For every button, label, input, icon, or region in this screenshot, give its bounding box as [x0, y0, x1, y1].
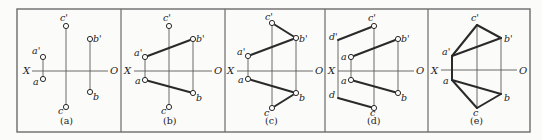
edge-line — [477, 94, 501, 108]
point-label: b — [299, 92, 305, 103]
axis-origin-label: O — [519, 65, 527, 76]
point-label: b' — [299, 33, 308, 44]
point-marker-icon — [245, 53, 250, 58]
axis-x-label: X — [327, 65, 336, 76]
point-label: c' — [265, 11, 273, 22]
point-marker-icon — [142, 77, 147, 82]
point-label: a' — [442, 46, 450, 57]
point-label: a — [341, 51, 347, 62]
axis-origin-label: O — [214, 65, 222, 76]
point-label: a — [341, 75, 347, 86]
projection-figure: XOa'ab'bc'c(a)XOa'ab'bc'c(b)XOa'ab'bc'c(… — [0, 0, 542, 140]
panels: XOa'ab'bc'c(a)XOa'ab'bc'c(b)XOa'ab'bc'c(… — [22, 11, 527, 126]
edge-line — [351, 39, 398, 57]
point-marker-icon — [293, 35, 298, 40]
edge-line — [351, 80, 398, 93]
point-label: a — [238, 74, 244, 85]
point-label: d' — [329, 31, 338, 42]
point-label: b' — [93, 33, 102, 44]
point-marker-icon — [142, 54, 147, 59]
panel-caption: (a) — [60, 115, 73, 126]
point-label: a' — [134, 47, 142, 58]
panel-caption: (b) — [163, 115, 177, 126]
panel-caption: (e) — [470, 115, 483, 126]
axis-x-label: X — [226, 65, 235, 76]
point-label: b — [196, 92, 202, 103]
point-marker-icon — [190, 36, 195, 41]
point-label: b — [401, 92, 407, 103]
point-label: a — [33, 76, 39, 87]
edge-line — [272, 93, 296, 108]
point-label: b — [504, 92, 510, 103]
point-label: c' — [368, 12, 376, 23]
figure-frame — [17, 9, 530, 132]
panel-d: XOd'aab'bc'cd(d) — [327, 12, 424, 126]
axis-x-label: X — [22, 65, 31, 76]
point-marker-icon — [348, 77, 353, 82]
point-marker-icon — [63, 104, 68, 109]
edge-line — [272, 23, 296, 38]
point-marker-icon — [348, 54, 353, 59]
edge-line — [338, 98, 374, 108]
point-marker-icon — [166, 104, 171, 109]
point-marker-icon — [269, 105, 274, 110]
point-label: b — [93, 91, 99, 102]
axis-x-label: X — [430, 65, 439, 76]
point-label: c' — [60, 12, 68, 23]
panel-c: XOa'ab'bc'c(c) — [226, 11, 323, 126]
point-label: c' — [471, 12, 479, 23]
panel-caption: (d) — [367, 115, 381, 126]
point-marker-icon — [87, 89, 92, 94]
axis-origin-label: O — [110, 65, 118, 76]
point-label: d — [329, 89, 335, 100]
point-marker-icon — [293, 90, 298, 95]
point-marker-icon — [371, 23, 376, 28]
point-marker-icon — [63, 23, 68, 28]
point-label: a — [135, 75, 141, 86]
point-label: a' — [237, 46, 245, 57]
point-marker-icon — [190, 90, 195, 95]
point-marker-icon — [395, 36, 400, 41]
point-marker-icon — [395, 90, 400, 95]
point-label: a' — [32, 45, 40, 56]
edge-line — [477, 25, 501, 38]
axis-origin-label: O — [315, 65, 323, 76]
point-label: c' — [163, 12, 171, 23]
panel-b: XOa'ab'bc'c(b) — [123, 12, 222, 126]
point-label: a — [443, 75, 449, 86]
point-label: b' — [401, 33, 410, 44]
point-marker-icon — [245, 76, 250, 81]
point-marker-icon — [40, 54, 45, 59]
panel-a: XOa'ab'bc'c(a) — [22, 12, 118, 126]
point-label: b' — [196, 33, 205, 44]
point-marker-icon — [40, 76, 45, 81]
point-marker-icon — [87, 36, 92, 41]
edge-line — [338, 26, 374, 40]
point-label: b' — [504, 33, 513, 44]
panel-e: XOa'ab'bc'c(e) — [430, 12, 527, 126]
point-marker-icon — [166, 23, 171, 28]
axis-origin-label: O — [416, 65, 424, 76]
axis-x-label: X — [123, 65, 132, 76]
panel-caption: (c) — [265, 115, 278, 126]
